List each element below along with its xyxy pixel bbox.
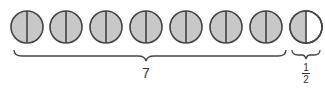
whole-circle: [50, 11, 82, 43]
group-brace: [14, 50, 286, 61]
whole-circle: [90, 11, 122, 43]
whole-circle: [250, 11, 282, 43]
whole-circle: [11, 11, 43, 43]
fraction-numerator: 1: [299, 62, 313, 73]
whole-circle: [170, 11, 202, 43]
half-brace: [292, 50, 320, 59]
whole-circle: [210, 11, 242, 43]
fraction-label: 1 2: [299, 62, 313, 85]
whole-circle: [130, 11, 162, 43]
half-shaded-circle: [290, 11, 322, 43]
fraction-denominator: 2: [299, 74, 313, 85]
group-count-label: 7: [138, 65, 154, 81]
fraction-circles-diagram: [0, 0, 325, 92]
